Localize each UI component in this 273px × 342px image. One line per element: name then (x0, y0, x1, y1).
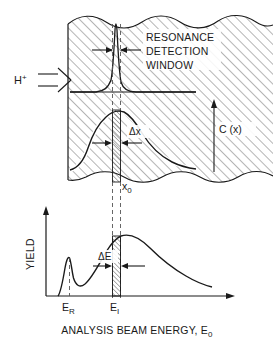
delta-x-label: Δx (129, 126, 141, 137)
figure-canvas: H+ RESONANCE DETECTION WINDOW (0, 0, 273, 342)
tick-label-ei: EI (110, 301, 119, 316)
tick-label-er: ER (62, 301, 75, 316)
resonance-detection-window-annotation: RESONANCE DETECTION WINDOW (143, 29, 221, 71)
beam-arrow-icon (38, 68, 71, 92)
depth-window-slab-rect (113, 110, 121, 182)
annotation-line-2: DETECTION (146, 45, 208, 57)
delta-e-label: ΔE (98, 251, 112, 262)
ion-species-label: H+ (14, 73, 27, 86)
beam-energy-axis-title: ANALYSIS BEAM ENERGY, E0 (61, 324, 213, 339)
energy-window-slab (113, 236, 121, 296)
resonance-depth-profiling-figure: H+ RESONANCE DETECTION WINDOW (0, 0, 273, 342)
annotation-line-1: RESONANCE (146, 31, 214, 43)
yield-y-axis-arrowhead (43, 206, 49, 215)
yield-plot: ΔE ER EI YIELD ANALYSIS BEAM ENERGY, E0 (24, 206, 235, 339)
concentration-axis-label: C (x) (219, 123, 242, 135)
annotation-line-3: WINDOW (146, 59, 193, 71)
delta-e-arrowhead-left (105, 263, 112, 269)
depth-position-label: x0 (122, 180, 132, 195)
yield-axis-title: YIELD (24, 238, 36, 270)
incident-beam-group: H+ (14, 68, 71, 92)
delta-e-arrowhead-right (121, 263, 128, 269)
yield-x-axis-arrowhead (226, 293, 235, 299)
